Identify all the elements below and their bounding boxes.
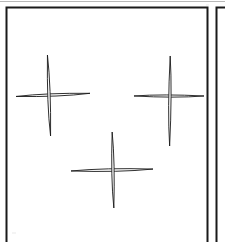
page-background bbox=[0, 0, 225, 242]
figure-drawing bbox=[0, 0, 225, 242]
figure-canvas bbox=[0, 0, 225, 242]
